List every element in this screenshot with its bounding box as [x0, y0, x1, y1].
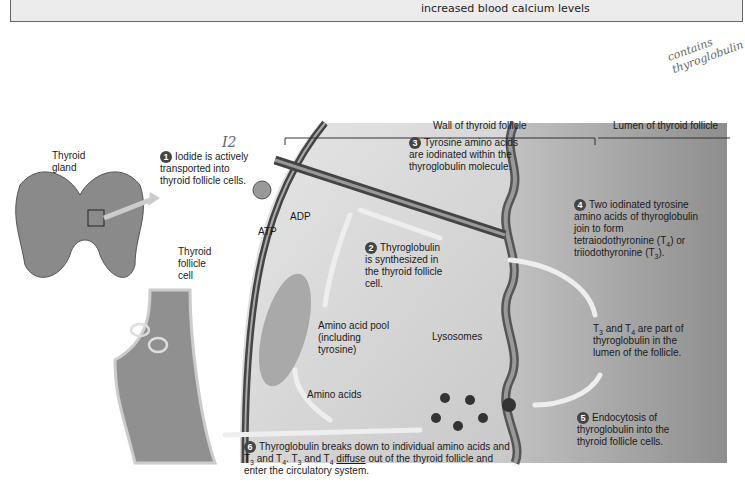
step-3: 3Tyrosine amino acids are iodinated with…: [409, 137, 529, 173]
adp-label: ADP: [290, 211, 311, 223]
step-5: 5Endocytosis of thyroglobulin into the t…: [577, 412, 687, 448]
thyroid-gland-icon: [16, 172, 144, 277]
wall-label: Wall of thyroid follicle: [433, 120, 527, 132]
atp-label: ATP: [258, 226, 277, 238]
step-2: 2Thyroglobulin is synthesized in the thy…: [365, 242, 445, 290]
amino-pool-label: Amino acid pool (including tyrosine): [318, 320, 398, 356]
handwritten-iodide: I2: [222, 134, 236, 150]
blood-vessel: [115, 290, 215, 463]
gland-label: Thyroid gland: [52, 150, 92, 174]
step-6: 6Thyroglobulin breaks down to individual…: [244, 441, 564, 477]
amino-acids-label: Amino acids: [307, 389, 361, 401]
step-1: 1Iodide is actively transported into thy…: [160, 151, 252, 187]
step-4: 4Two iodinated tyrosine amino acids of t…: [574, 199, 702, 259]
lysosomes-label: Lysosomes: [432, 331, 482, 343]
follicle-cell-label: Thyroid follicle cell: [178, 246, 218, 282]
lumen-label: Lumen of thyroid follicle: [613, 120, 718, 132]
lumen-note: T3 and T4 are part of thyroglobulin in t…: [593, 323, 693, 359]
